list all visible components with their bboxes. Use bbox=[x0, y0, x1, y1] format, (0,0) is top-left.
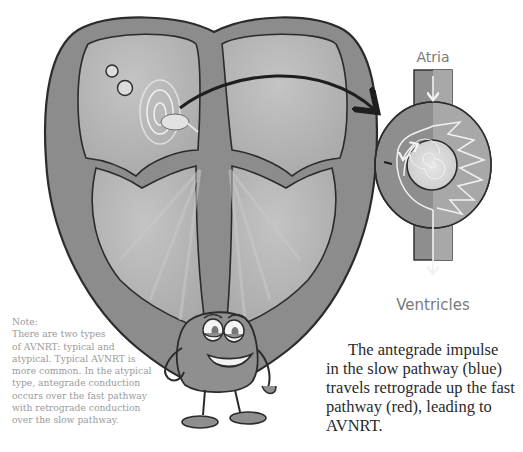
av-node bbox=[161, 114, 189, 130]
caption-line: The antegrade impulse bbox=[326, 340, 521, 359]
note-line: over the slow pathway. bbox=[12, 414, 192, 426]
note-line: type, antegrade conduction bbox=[12, 377, 192, 389]
caption-line: travels retrograde up the fast bbox=[326, 378, 521, 397]
atria-label: Atria bbox=[416, 49, 449, 65]
note-line: There are two types bbox=[12, 328, 192, 340]
note-line: of AVNRT: typical and bbox=[12, 341, 192, 353]
note-line: more common. In the atypical bbox=[12, 365, 192, 377]
ventricles-label: Ventricles bbox=[396, 296, 470, 314]
caption-line: in the slow pathway (blue) bbox=[326, 359, 521, 378]
note-heading: Note: bbox=[12, 316, 192, 328]
bubble-small bbox=[106, 65, 118, 77]
note-line: with retrograde conduction bbox=[12, 402, 192, 414]
bubble-large bbox=[118, 81, 133, 96]
note-line: occurs over the fast pathway bbox=[12, 390, 192, 402]
caption-line: pathway (red), leading to bbox=[326, 397, 521, 416]
note-text-block: Note: There are two types of AVNRT: typi… bbox=[12, 316, 192, 427]
caption-line: AVNRT. bbox=[326, 416, 521, 435]
diagram-stage: Atria Ventricles Note: There are two typ… bbox=[0, 0, 523, 452]
av-node-inset: Atria Ventricles bbox=[375, 49, 491, 314]
note-line: atypical. Typical AVNRT is bbox=[12, 353, 192, 365]
caption-text-block: The antegrade impulse in the slow pathwa… bbox=[326, 340, 521, 435]
